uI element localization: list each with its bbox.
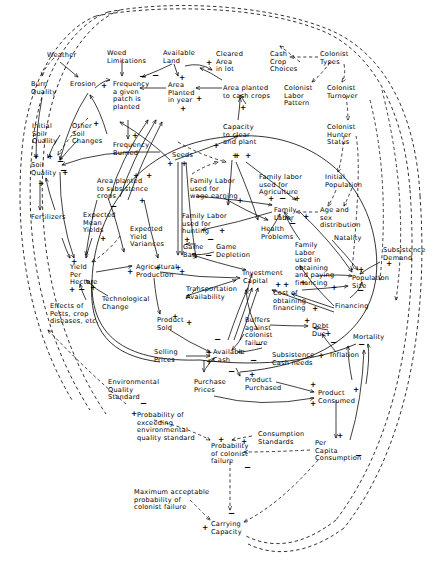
- node-product-sold[interactable]: Product Sold: [157, 317, 184, 332]
- polarity-plus-sign: +: [47, 153, 53, 160]
- node-colonist-types[interactable]: Colonist Types: [320, 51, 349, 66]
- node-colonist-hunter-status[interactable]: Colonist Hunter Status: [327, 124, 356, 147]
- polarity-plus-sign: +: [172, 313, 178, 320]
- node-erosion[interactable]: Erosion: [70, 81, 96, 89]
- polarity-plus-sign: +: [268, 195, 274, 202]
- polarity-plus-sign: +: [62, 169, 68, 176]
- polarity-plus-sign: +: [33, 153, 39, 160]
- polarity-plus-sign: +: [90, 284, 96, 291]
- node-weed-limitations[interactable]: Weed Limitations: [107, 50, 146, 65]
- polarity-plus-sign: +: [133, 172, 139, 179]
- node-family-labor-wage[interactable]: Family Labor used for wage earning: [190, 178, 238, 201]
- node-prob-exceeding-eq-standard[interactable]: Probability of exceeding environmental q…: [137, 412, 195, 442]
- node-financing[interactable]: Financing: [335, 303, 369, 311]
- node-available-land[interactable]: Available Land: [163, 50, 195, 65]
- polarity-plus-sign: +: [358, 266, 364, 273]
- node-technological-change[interactable]: Technological Change: [102, 296, 150, 311]
- polarity-minus-sign: −: [279, 195, 286, 201]
- node-product-purchased[interactable]: Product Purchased: [245, 377, 281, 392]
- polarity-plus-sign: +: [179, 74, 185, 81]
- node-effects-pests[interactable]: Effects of Pests, crop diseases, etc.: [50, 303, 99, 326]
- polarity-plus-sign: +: [304, 317, 310, 324]
- polarity-plus-sign: +: [179, 268, 185, 275]
- node-cost-obtaining-financing[interactable]: Cost of obtaining financing: [273, 290, 306, 313]
- polarity-plus-sign: +: [206, 349, 212, 356]
- polarity-plus-sign: +: [100, 235, 106, 242]
- polarity-minus-sign: −: [255, 341, 262, 347]
- polarity-plus-sign: +: [249, 371, 255, 378]
- polarity-plus-sign: +: [131, 410, 137, 417]
- polarity-plus-sign: +: [167, 160, 173, 167]
- node-burn-quality[interactable]: Burn Quality: [31, 81, 56, 96]
- polarity-plus-sign: +: [146, 172, 152, 179]
- node-game-bag[interactable]: Game Bag: [183, 244, 204, 259]
- polarity-plus-sign: +: [206, 59, 212, 66]
- polarity-plus-sign: +: [310, 381, 316, 388]
- node-consumption-standards[interactable]: Consumption Standards: [258, 431, 304, 446]
- node-available-cash[interactable]: Available Cash: [213, 349, 245, 364]
- node-age-sex-distribution[interactable]: Age and sex distribution: [320, 207, 361, 230]
- polarity-minus-sign: −: [205, 252, 212, 258]
- polarity-plus-sign: +: [184, 236, 190, 243]
- node-game-depletion[interactable]: Game Depletion: [216, 244, 250, 259]
- node-selling-prices[interactable]: Selling Prices: [154, 349, 178, 364]
- node-transportation-availability[interactable]: Transportation Availability: [186, 286, 237, 301]
- polarity-plus-sign: +: [218, 436, 224, 443]
- polarity-plus-sign: +: [202, 524, 208, 531]
- node-capacity-clear-plant[interactable]: Capacity to clear and plant: [223, 124, 257, 147]
- polarity-plus-sign: +: [283, 281, 289, 288]
- node-probability-colonist-failure[interactable]: Probability of colonist failure: [211, 443, 249, 466]
- polarity-plus-sign: +: [240, 104, 246, 111]
- polarity-minus-sign: −: [57, 158, 64, 164]
- node-weather[interactable]: Weather: [47, 52, 77, 60]
- node-frequency-planted[interactable]: Frequency a given patch is planted: [113, 81, 149, 111]
- node-subsistence-cash-needs[interactable]: Subsistence Cash needs: [272, 352, 315, 367]
- node-purchase-prices[interactable]: Purchase Prices: [194, 379, 226, 394]
- node-expected-mean-yields[interactable]: Expected Mean Yields: [83, 212, 116, 235]
- node-cleared-area-in-lot[interactable]: Cleared Area in lot: [216, 51, 243, 74]
- polarity-minus-sign: −: [152, 72, 159, 78]
- polarity-plus-sign: +: [331, 284, 337, 291]
- polarity-plus-sign: +: [186, 319, 192, 326]
- polarity-minus-sign: −: [110, 203, 117, 209]
- node-environmental-quality-standard[interactable]: Environmental Quality Standard: [108, 379, 159, 402]
- node-max-acceptable-prob-failure[interactable]: Maximum acceptable probability of coloni…: [134, 489, 209, 512]
- polarity-plus-sign: +: [206, 358, 212, 365]
- node-product-consumed[interactable]: Product Consumed: [318, 390, 355, 405]
- polarity-minus-sign: −: [250, 357, 257, 363]
- polarity-minus-sign: −: [228, 368, 235, 374]
- polarity-minus-sign: −: [330, 339, 337, 345]
- node-cash-crop-choices[interactable]: Cash Crop Choices: [270, 51, 298, 74]
- node-area-planted-in-year[interactable]: Area Planted in year: [168, 82, 195, 105]
- node-frequency-burned[interactable]: Frequency Burned: [113, 142, 149, 157]
- node-carrying-capacity[interactable]: Carrying Capacity: [211, 521, 242, 536]
- polarity-minus-sign: −: [78, 286, 85, 292]
- polarity-plus-sign: +: [180, 105, 186, 112]
- node-colonist-labor-pattern[interactable]: Colonist Labor Pattern: [284, 85, 313, 108]
- node-health-problems[interactable]: Health Problems: [261, 226, 293, 241]
- polarity-plus-sign: +: [275, 281, 281, 288]
- node-natality[interactable]: Natality: [334, 235, 362, 243]
- causal-loop-diagram: WeatherWeed LimitationsAvailable LandCle…: [0, 0, 439, 562]
- node-inflation[interactable]: Inflation: [330, 352, 359, 360]
- polarity-plus-sign: +: [181, 160, 187, 167]
- polarity-plus-sign: +: [318, 352, 324, 359]
- polarity-plus-sign: +: [353, 386, 359, 393]
- polarity-plus-sign: +: [300, 279, 306, 286]
- polarity-minus-sign: −: [207, 236, 214, 242]
- polarity-minus-sign: −: [289, 220, 296, 226]
- polarity-minus-sign: −: [357, 287, 364, 293]
- node-initial-soil-quality[interactable]: Initial Soil Quality: [32, 123, 57, 146]
- polarity-plus-sign: +: [69, 286, 75, 293]
- node-soil-quality[interactable]: Soil Quality: [31, 162, 56, 177]
- polarity-minus-sign: −: [228, 510, 235, 516]
- node-initial-population[interactable]: Initial Population: [325, 174, 362, 189]
- polarity-plus-sign: +: [241, 438, 247, 445]
- node-colonist-turnover[interactable]: Colonist Turnover: [327, 85, 358, 100]
- polarity-plus-sign: +: [237, 197, 243, 204]
- node-expected-yield-variances[interactable]: Expected Yield Variances: [130, 226, 164, 249]
- node-area-planted-cash-crops[interactable]: Area planted to cash crops: [223, 85, 270, 100]
- polarity-plus-sign: +: [38, 180, 44, 187]
- node-fertilizers[interactable]: Fertilizers: [31, 214, 66, 222]
- polarity-plus-sign: +: [386, 260, 392, 267]
